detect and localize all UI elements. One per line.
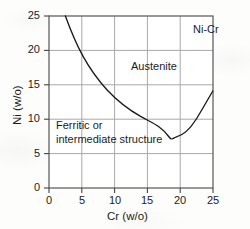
region-label-austenite: Austenite <box>131 59 177 73</box>
y-tick-label-20: 20 <box>14 44 40 55</box>
x-tick-label-20: 20 <box>169 195 191 206</box>
x-axis-ticks <box>49 188 213 193</box>
x-tick-label-15: 15 <box>136 195 158 206</box>
y-axis-ticks <box>44 16 49 188</box>
plot-background <box>49 16 213 188</box>
x-tick-label-5: 5 <box>71 195 93 206</box>
y-tick-label-5: 5 <box>14 148 40 159</box>
region-label-ferritic-line2: intermediate structure <box>56 132 162 146</box>
y-tick-label-0: 0 <box>14 182 40 193</box>
system-label-ni-cr: Ni-Cr <box>193 22 219 36</box>
x-tick-label-10: 10 <box>104 195 126 206</box>
y-tick-label-25: 25 <box>14 10 40 21</box>
x-tick-label-0: 0 <box>38 195 60 206</box>
y-axis-title: Ni (w/o) <box>12 85 24 125</box>
x-tick-label-25: 25 <box>202 195 224 206</box>
x-axis-title: Cr (w/o) <box>107 211 148 223</box>
region-label-ferritic-line1: Ferritic or <box>56 118 102 132</box>
ni-cr-phase-diagram-figure: 25 20 15 10 5 0 0 5 10 15 20 25 Ni (w/o)… <box>0 0 250 229</box>
